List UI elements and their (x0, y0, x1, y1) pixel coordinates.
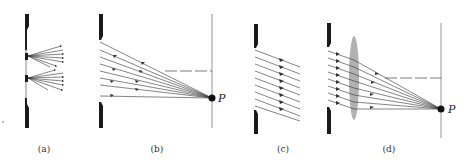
converging-rays (100, 42, 212, 98)
barrier-bottom (25, 98, 29, 128)
barrier-bottom (327, 107, 331, 134)
point-p-label: P (447, 103, 456, 116)
parallel-rays (255, 50, 300, 121)
barrier-top (99, 14, 103, 40)
barrier-top (254, 24, 258, 48)
barrier-top (25, 14, 29, 50)
panel-d: P (d) (327, 23, 456, 154)
source-1 (25, 53, 28, 60)
source-2 (25, 75, 28, 82)
ray-arrows (279, 58, 284, 111)
lens (349, 36, 359, 120)
panel-a-label: (a) (38, 144, 50, 154)
stray-mark (2, 121, 4, 123)
panel-a: (a) (25, 14, 63, 154)
panel-d-label: (d) (383, 144, 396, 154)
lens-rays (328, 51, 441, 109)
diffraction-figure: (a) P (b) (0, 0, 473, 161)
point-p (438, 106, 445, 113)
ray-fan-1 (28, 46, 63, 67)
point-p (209, 95, 216, 102)
barrier-bottom (254, 110, 258, 134)
barrier-bottom (99, 102, 103, 128)
point-p-label: P (217, 92, 226, 105)
panel-b-label: (b) (151, 144, 164, 154)
barrier-top (327, 23, 331, 47)
panel-c-label: (c) (277, 144, 289, 154)
panel-b: P (b) (99, 14, 226, 154)
panel-c: (c) (254, 24, 300, 154)
ray-fan-2 (28, 70, 63, 90)
